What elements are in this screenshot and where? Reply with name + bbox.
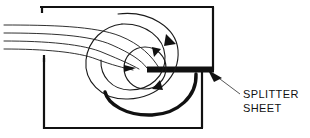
streamlines [4, 25, 159, 70]
splitter-sheet-diagram: SPLITTER SHEET [0, 0, 310, 138]
vortex-outer-loop [86, 13, 178, 99]
diagram-canvas: SPLITTER SHEET [0, 0, 310, 138]
core-arrowhead-top [152, 47, 161, 57]
splitter-label-line-2: SHEET [243, 102, 282, 114]
streamline-4 [4, 49, 133, 70]
splitter-leader [208, 70, 240, 94]
streamline-3 [4, 41, 139, 69]
leader-arrowhead [208, 70, 222, 82]
vortex-spiral-outer [86, 13, 178, 99]
flow-arrowheads [124, 34, 176, 90]
splitter-label-line-1: SPLITTER [243, 88, 299, 100]
vortex-second-turn [101, 24, 165, 90]
vortex-outer-arrowhead [164, 34, 176, 46]
